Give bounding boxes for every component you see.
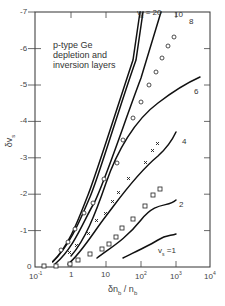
label-vs-6: 6 [194,87,198,96]
ytick-6: -6 [20,44,27,53]
ytick-2: -2 [20,189,27,198]
curve-vs-6 [71,77,200,256]
annotation-text: p-type Ge depletion and inversion layers [53,40,116,70]
ytick-3: -3 [20,153,27,162]
xtick-0: 10-1 [29,270,42,281]
curve-vs-4 [68,132,176,264]
label-vs-20: vs = 20 [137,8,162,19]
xtick-3: 102 [135,270,147,281]
xtick-2: 10 [101,270,110,279]
square-markers [42,187,162,268]
annotation-line-2: depletion and [53,50,116,60]
xtick-1: 1 [69,270,73,279]
annotation-line-1: p-type Ge [53,40,116,50]
label-vs-4: 4 [182,137,186,146]
xtick-4: 103 [170,270,182,281]
label-vs-8: 8 [189,17,193,26]
label-vs-2: 2 [179,200,183,209]
annotation-line-3: inversion layers [53,60,116,70]
label-vs-10: 10 [174,10,183,19]
x-axis-label: δnb / nb [108,284,137,296]
label-vs-1: vs =1 [158,246,176,257]
ytick-1: -1 [20,226,27,235]
y-axis-label: δvs [4,135,16,148]
ytick-5: -5 [20,80,27,89]
xtick-5: 104 [204,270,216,281]
cross-markers [68,142,159,254]
ytick-7: -7 [20,7,27,16]
ytick-4: -4 [20,116,27,125]
